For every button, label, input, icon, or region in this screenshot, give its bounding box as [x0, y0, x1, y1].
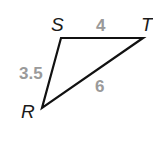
vertex-label-s: S: [51, 14, 64, 35]
triangle-diagram: S T R 4 3.5 6: [0, 0, 153, 157]
side-label-sr: 3.5: [19, 64, 43, 83]
side-label-st: 4: [96, 16, 106, 35]
vertex-label-t: T: [141, 14, 153, 35]
vertex-label-r: R: [21, 101, 35, 122]
side-label-rt: 6: [95, 77, 104, 96]
triangle-srt: [42, 38, 143, 108]
